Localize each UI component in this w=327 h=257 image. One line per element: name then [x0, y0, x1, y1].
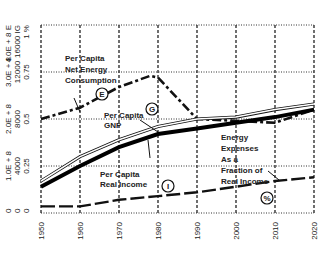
annotation-text: Net Energy [65, 65, 108, 74]
marker-label: I [167, 182, 169, 191]
y-tick-label: 1 % [22, 25, 31, 39]
annotation-text: Fraction of [221, 166, 263, 175]
y-tick-label: 4000 [13, 157, 22, 175]
x-axis-ticks: 19501960197019801990200020102020 [37, 221, 319, 239]
y-tick-label: 0 [13, 208, 22, 213]
marker-label: E [99, 90, 105, 99]
y-tick-label: 1.0E + 8 [4, 150, 13, 181]
y-tick-label: 0.25 [22, 158, 31, 174]
annotation-text: Real Income [221, 177, 269, 186]
x-tick-label: 2000 [232, 221, 241, 239]
x-tick-label: 1990 [193, 221, 202, 239]
x-tick-label: 1950 [37, 221, 46, 239]
y-tick-label: 2.0E + 8 [4, 103, 13, 134]
x-tick-label: 1960 [76, 221, 85, 239]
x-tick-label: 2020 [310, 221, 319, 239]
series-energy-fraction [41, 177, 314, 206]
annotation-text: Per Capita [65, 54, 105, 63]
annotation-text: GNP [104, 121, 122, 130]
y-tick-label: 0 [22, 208, 31, 213]
annotation-text: Per Capita [104, 111, 144, 120]
series-lines [41, 76, 314, 207]
annotation-text: Expenses [221, 144, 259, 153]
annotation-text: Consumption [65, 76, 117, 85]
y-axis-ticks: 01.0E + 82.0E + 83.0E + 84.0E + 8 E04000… [4, 25, 31, 213]
y-tick-label: 8000 [13, 110, 22, 128]
y-tick-label: 0.5 [22, 113, 31, 125]
y-tick-label: 0 [4, 208, 13, 213]
y-tick-label: 4.0E + 8 E [4, 25, 13, 63]
marker-label: G [149, 105, 155, 114]
annotation-text: As a [221, 155, 238, 164]
line-chart: Per CapitaNet EnergyConsumptionEPer Capi… [0, 0, 327, 257]
x-tick-label: 2010 [271, 221, 280, 239]
y-tick-label: 0.75 [22, 64, 31, 80]
annotations: Per CapitaNet EnergyConsumptionEPer Capi… [65, 54, 279, 204]
annotation-text: Per Capita [100, 170, 140, 179]
annotation-text: Real Income [100, 180, 148, 189]
y-tick-label: 16000 IG [13, 25, 22, 58]
x-tick-label: 1980 [154, 221, 163, 239]
marker-label: % [263, 194, 270, 203]
y-tick-label: 12000 [13, 60, 22, 83]
x-tick-label: 1970 [115, 221, 124, 239]
annotation-text: Energy [221, 133, 249, 142]
